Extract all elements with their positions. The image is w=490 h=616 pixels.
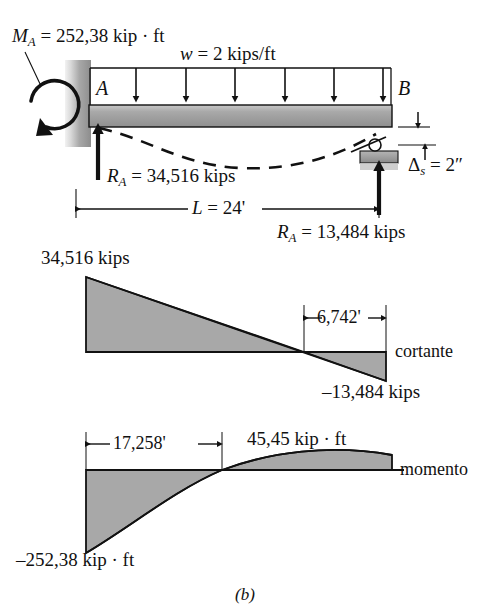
figure-graphics [0,0,490,616]
node-label-b: B [398,78,410,98]
node-label-a: A [96,78,108,98]
settlement-label: Δs = 2″ [408,155,463,178]
reaction-a-symbol: R [107,165,119,186]
reaction-b-value: = 13,484 kips [297,221,406,242]
distributed-load-group [90,68,391,105]
figure-b: MA = 252,38 kip · ft w = 2 kips/ft A B R… [0,0,490,616]
moment-max-negative-label: –252,38 kip · ft [16,550,134,569]
roller-support [351,137,398,170]
shear-diagram-title: cortante [395,342,453,360]
reaction-b-label: RA = 13,484 kips [277,222,405,245]
shear-zero-crossing-dim-label: 6,742' [317,308,361,326]
deflected-shape-curve [99,128,376,168]
beam-member [89,105,392,127]
moment-value: = 252,38 kip · ft [36,25,165,46]
reaction-a-subscript: A [119,174,127,189]
distributed-load-label: w = 2 kips/ft [180,44,276,63]
shear-diagram-graphics [86,277,386,381]
settlement-dimension [398,112,436,160]
udl-value: = 2 kips/ft [193,43,276,64]
reaction-a-label: RA = 34,516 kips [107,166,235,189]
moment-max-positive-label: 45,45 kip · ft [247,429,346,448]
reaction-a-value: = 34,516 kips [127,165,236,186]
span-length-label: L = 24' [192,198,245,217]
settlement-value: = 2″ [425,154,463,175]
span-symbol: L [192,197,203,218]
udl-symbol: w [180,43,193,64]
reaction-b-symbol: R [277,221,289,242]
figure-caption: (b) [0,585,490,605]
moment-inflection-dim-label: 17,258' [113,434,166,452]
moment-symbol-subscript: A [28,34,36,49]
reaction-b-subscript: A [289,230,297,245]
moment-symbol: M [12,25,28,46]
span-value: = 24' [203,197,246,218]
shear-min-label: –13,484 kips [322,382,420,401]
moment-diagram-title: momento [400,460,468,478]
shear-max-label: 34,516 kips [41,248,130,267]
applied-moment-label: MA = 252,38 kip · ft [12,26,165,49]
settlement-symbol: Δ [408,154,420,175]
